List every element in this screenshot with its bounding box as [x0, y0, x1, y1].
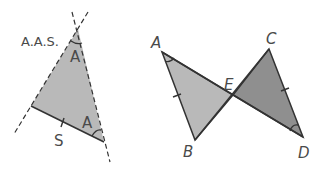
side-label: S [54, 132, 64, 150]
point-label-a: A [150, 34, 161, 52]
apex-angle-label: A [70, 48, 81, 66]
point-label-c: C [266, 30, 277, 48]
point-label-e: E [224, 76, 234, 94]
base-angle-label: A [82, 114, 93, 132]
bowtie-triangles-figure: A B C D E [150, 30, 310, 162]
rule-label: A.A.S. [21, 34, 59, 49]
point-label-b: B [183, 143, 193, 161]
triangle-cde [233, 49, 303, 137]
triangle-abe [162, 52, 233, 140]
point-label-d: D [298, 144, 310, 162]
diagram-canvas: A.A.S. A A S A B C D E [0, 0, 320, 172]
aas-triangle-figure: A.A.S. A A S [14, 12, 110, 162]
